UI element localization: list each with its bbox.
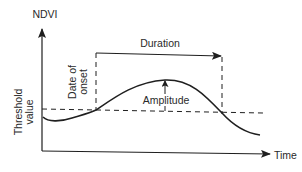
ndvi-phenology-diagram: NDVI Time Duration Amplitude Date of ons… [0,0,302,172]
threshold-line [42,109,263,113]
x-axis-label: Time [274,149,297,161]
duration-arrow [96,53,221,56]
amplitude-label: Amplitude [143,94,190,106]
duration-label: Duration [140,37,180,49]
threshold-label-line2: value [23,99,35,124]
y-axis-label: NDVI [32,8,57,20]
x-axis [42,151,270,154]
date-of-onset-label-line2: onset [77,69,89,95]
